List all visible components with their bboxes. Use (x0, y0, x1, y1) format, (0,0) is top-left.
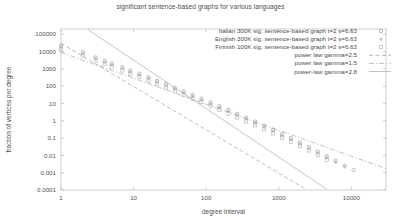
y-tick-label: 0.001 (41, 169, 57, 176)
y-tick-label: 0.0001 (37, 186, 56, 193)
chart-container: significant sentence-based graphs for va… (0, 0, 401, 223)
legend-label: power law gamma=2.5 (295, 51, 358, 58)
legend-label: English 300K sig. sentence-based graph t… (215, 35, 358, 42)
y-tick-label: 1 (53, 117, 57, 124)
x-tick-label: 100 (201, 194, 212, 201)
legend-label: Finnish 100K sig. sentence-based graph t… (215, 43, 357, 50)
y-tick-label: 0.01 (44, 152, 57, 159)
legend-label: power law gamma=1.5 (295, 59, 358, 66)
x-tick-label: 10 (130, 194, 137, 201)
legend-marker (379, 37, 383, 41)
y-tick-label: 0.1 (47, 134, 56, 141)
y-axis-title: fraction of vertices per degree (5, 66, 13, 152)
legend-label: power-law gamma=2.8 (294, 68, 357, 75)
y-tick-label: 100 (46, 82, 57, 89)
y-tick-label: 10000 (39, 48, 57, 55)
x-axis-title: degree interval (202, 208, 246, 216)
data-point (352, 168, 355, 171)
y-tick-label: 100000 (35, 30, 56, 37)
x-tick-label: 10000 (343, 194, 361, 201)
legend-marker (379, 46, 382, 49)
fit-line (88, 30, 326, 189)
legend-label: Italian 300K sig. sentence-based graph t… (219, 27, 358, 34)
y-tick-label: 1000 (42, 65, 56, 72)
legend-marker (379, 29, 382, 32)
y-tick-label: 10 (49, 100, 56, 107)
plot-area: 1000001000010001001010.10.010.0010.0001 … (0, 0, 401, 223)
legend: Italian 300K sig. sentence-based graph t… (215, 27, 391, 75)
x-tick-label: 1 (59, 194, 63, 201)
x-tick-label: 1000 (272, 194, 286, 201)
series-points (59, 48, 328, 161)
